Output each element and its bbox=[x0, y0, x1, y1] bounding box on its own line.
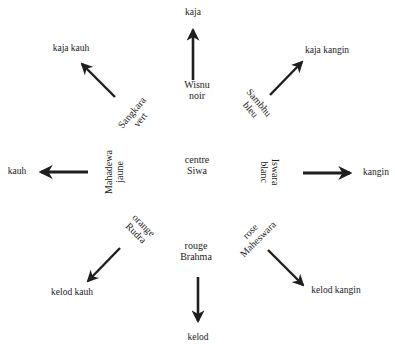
arrow-kaja-kangin bbox=[270, 62, 302, 95]
deity-color: noir bbox=[184, 90, 210, 101]
deity-label-s: rouge Brahma bbox=[180, 240, 212, 262]
deity-color: blanc bbox=[259, 159, 270, 186]
deity-label-n: Wisnu noir bbox=[184, 79, 210, 101]
deity-color: jaune bbox=[114, 150, 125, 194]
direction-kelod: kelod bbox=[187, 332, 208, 342]
direction-kangin: kangin bbox=[363, 167, 389, 177]
direction-kaja-kauh: kaja kauh bbox=[53, 43, 90, 53]
direction-kauh: kauh bbox=[8, 166, 26, 176]
direction-kaja: kaja bbox=[185, 7, 201, 17]
center-deity: Siwa bbox=[185, 165, 209, 176]
deity-name: Iswara bbox=[270, 159, 281, 186]
arrow-kelod-kangin bbox=[268, 250, 303, 285]
deity-color: rouge bbox=[180, 240, 212, 251]
arrow-kaja-kauh bbox=[82, 64, 115, 97]
deity-name: Mahadewa bbox=[103, 150, 114, 194]
direction-kelod-kauh: kelod kauh bbox=[51, 287, 93, 297]
deity-label-e: Iswara blanc bbox=[259, 159, 281, 186]
direction-kaja-kangin: kaja kangin bbox=[305, 45, 349, 55]
center-label: centre Siwa bbox=[185, 154, 209, 176]
direction-kelod-kangin: kelod kangin bbox=[311, 285, 360, 295]
center-line1: centre bbox=[185, 154, 209, 165]
arrow-kelod-kauh bbox=[88, 248, 120, 281]
deity-name: Wisnu bbox=[184, 79, 210, 90]
deity-name: Brahma bbox=[180, 251, 212, 262]
deity-label-w: Mahadewa jaune bbox=[103, 150, 125, 194]
